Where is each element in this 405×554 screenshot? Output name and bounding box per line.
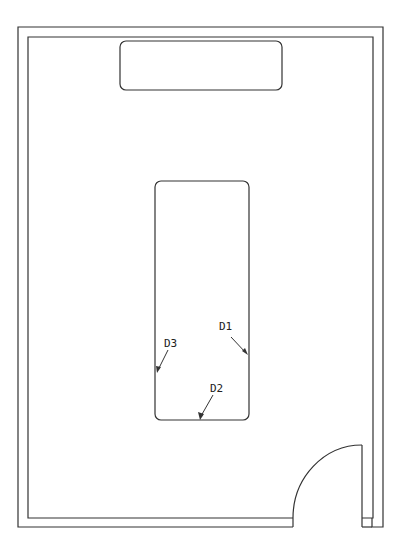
arrow-d2 — [201, 395, 213, 416]
floor-plan: D1 D3 D2 — [0, 0, 405, 554]
inner-wall — [28, 37, 373, 518]
top-cabinet — [120, 41, 282, 90]
label-d3: D3 — [164, 337, 177, 350]
central-table — [155, 181, 249, 420]
label-d1: D1 — [219, 320, 232, 333]
arrowhead-d3-icon — [156, 366, 161, 373]
label-d2: D2 — [210, 382, 223, 395]
outer-wall — [18, 27, 383, 527]
door-swing-arc — [293, 445, 362, 518]
